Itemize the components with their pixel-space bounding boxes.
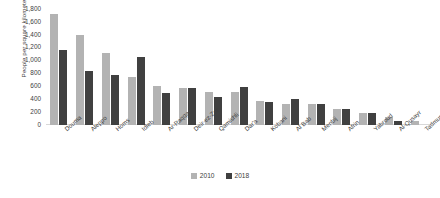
bar-2018[interactable] bbox=[291, 99, 299, 125]
bar-group bbox=[226, 9, 252, 125]
y-tick-label: 800 bbox=[7, 70, 41, 76]
category-label: Al-Qusayr bbox=[397, 127, 402, 132]
legend-label-2018: 2018 bbox=[235, 172, 250, 179]
category-label: Afrin bbox=[346, 127, 351, 132]
y-tick-label: 400 bbox=[7, 96, 41, 102]
bar-groups bbox=[46, 9, 432, 125]
category-label: Kobani bbox=[269, 127, 274, 132]
legend-item-2010[interactable]: 2010 bbox=[191, 172, 215, 179]
bar-group bbox=[46, 9, 72, 125]
category-label: Qamishli bbox=[217, 127, 222, 132]
bar-2010[interactable] bbox=[153, 86, 161, 125]
category-label: Menbij bbox=[320, 127, 325, 132]
category-label: Al Bab bbox=[294, 127, 299, 132]
category-label: Douma bbox=[63, 127, 68, 132]
bar-group bbox=[72, 9, 98, 125]
bar-group bbox=[303, 9, 329, 125]
bar-group bbox=[252, 9, 278, 125]
legend-swatch-2018 bbox=[226, 173, 232, 179]
bar-group bbox=[406, 9, 432, 125]
bar-group bbox=[123, 9, 149, 125]
y-tick-label: 1,000 bbox=[7, 57, 41, 63]
bar-group bbox=[381, 9, 407, 125]
category-label: Homs bbox=[114, 127, 119, 132]
bar-group bbox=[149, 9, 175, 125]
category-label: Yabroud bbox=[372, 127, 377, 132]
bar-2018[interactable] bbox=[240, 87, 248, 125]
bar-2010[interactable] bbox=[76, 35, 84, 125]
bar-2018[interactable] bbox=[188, 88, 196, 125]
plot-area: 02004006008001,0001,2001,4001,6001,800 bbox=[46, 9, 432, 125]
category-label: Tadmur bbox=[423, 127, 428, 132]
category-label: Dar'a bbox=[243, 127, 248, 132]
bar-2018[interactable] bbox=[265, 102, 273, 125]
category-label: Ar-Raqqa bbox=[166, 127, 171, 132]
y-tick-label: 0 bbox=[7, 122, 41, 128]
legend-swatch-2010 bbox=[191, 173, 197, 179]
y-tick-label: 600 bbox=[7, 83, 41, 89]
bar-group bbox=[175, 9, 201, 125]
bar-group bbox=[97, 9, 123, 125]
bar-group bbox=[329, 9, 355, 125]
y-tick-label: 1,600 bbox=[7, 19, 41, 25]
bar-2018[interactable] bbox=[85, 71, 93, 125]
y-tick-label: 1,400 bbox=[7, 32, 41, 38]
bar-2010[interactable] bbox=[50, 14, 58, 125]
category-label: Deir-ez-Zor bbox=[192, 127, 197, 132]
bar-group bbox=[278, 9, 304, 125]
y-tick-label: 1,800 bbox=[7, 6, 41, 12]
bar-2018[interactable] bbox=[111, 75, 119, 125]
y-tick-label: 1,200 bbox=[7, 44, 41, 50]
legend-label-2010: 2010 bbox=[200, 172, 215, 179]
category-label: Aleppo bbox=[89, 127, 94, 132]
bar-2018[interactable] bbox=[162, 93, 170, 125]
x-axis-category-labels: DoumaAleppoHomsIdlebAr-RaqqaDeir-ez-ZorQ… bbox=[46, 127, 432, 173]
bar-2018[interactable] bbox=[137, 57, 145, 125]
legend-item-2018[interactable]: 2018 bbox=[226, 172, 250, 179]
bar-2018[interactable] bbox=[317, 104, 325, 125]
bar-2018[interactable] bbox=[59, 50, 67, 125]
chart-legend: 2010 2018 bbox=[0, 172, 440, 179]
category-label: Idleb bbox=[140, 127, 145, 132]
bar-chart: People per square kilometer 020040060080… bbox=[0, 0, 440, 198]
y-tick-label: 200 bbox=[7, 109, 41, 115]
bar-group bbox=[355, 9, 381, 125]
bar-2010[interactable] bbox=[128, 77, 136, 125]
